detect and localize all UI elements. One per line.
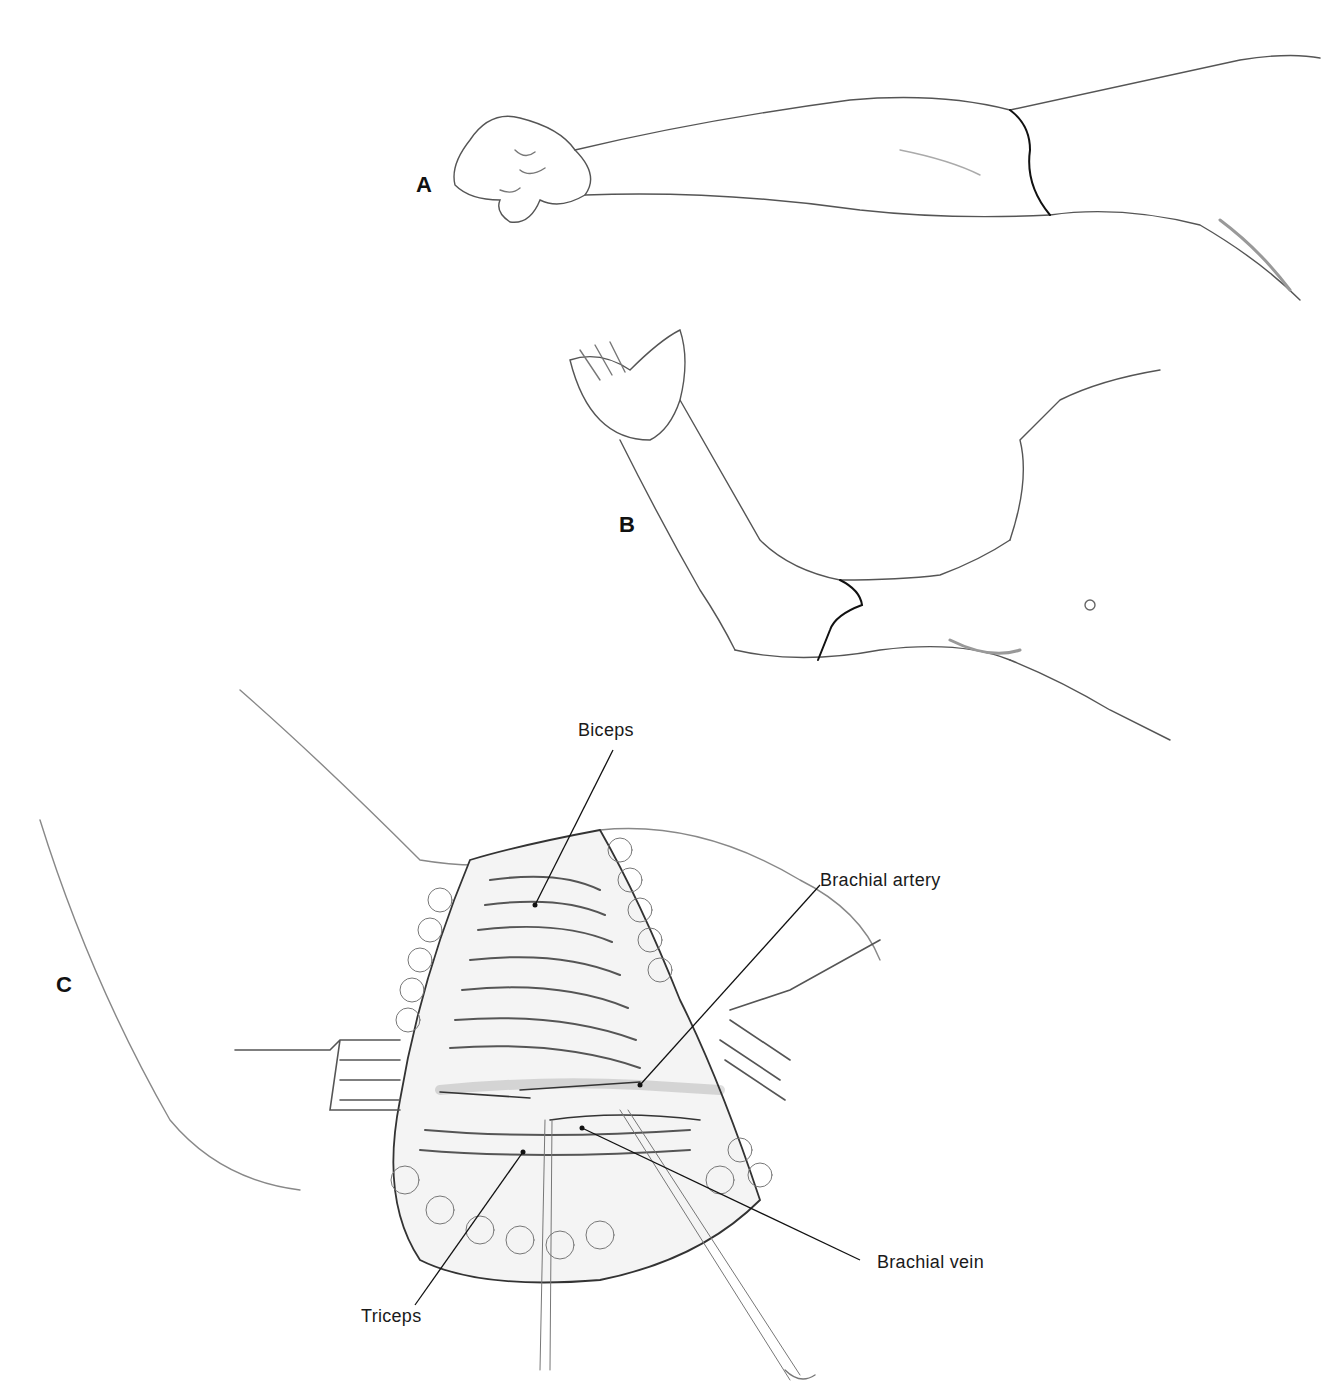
panel-c-illustration xyxy=(0,0,1338,1398)
panel-label-b: B xyxy=(619,512,635,538)
callout-brachial-artery: Brachial artery xyxy=(820,870,941,891)
anatomical-figure: A B C Biceps Brachial artery Brachial ve… xyxy=(0,0,1338,1398)
callout-brachial-vein: Brachial vein xyxy=(877,1252,984,1273)
callout-triceps: Triceps xyxy=(361,1306,421,1327)
callout-biceps: Biceps xyxy=(578,720,634,741)
panel-label-c: C xyxy=(56,972,72,998)
panel-label-a: A xyxy=(416,172,432,198)
